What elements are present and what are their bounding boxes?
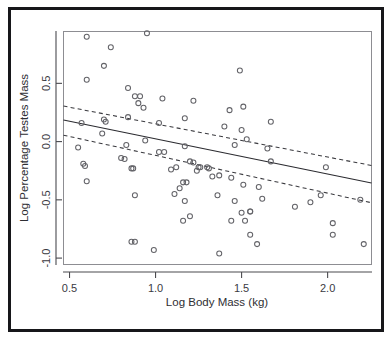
data-point bbox=[124, 143, 129, 148]
data-point bbox=[255, 242, 260, 247]
data-point bbox=[108, 45, 113, 50]
data-point bbox=[222, 124, 227, 129]
data-point bbox=[184, 180, 189, 185]
data-point bbox=[210, 174, 215, 179]
y-axis: 0.50.0-0.5-1.0 bbox=[40, 31, 62, 268]
confidence-bands bbox=[64, 106, 372, 203]
data-point bbox=[308, 200, 313, 205]
data-point bbox=[84, 77, 89, 82]
data-point bbox=[191, 98, 196, 103]
data-point bbox=[169, 167, 174, 172]
x-tick-label: 1.0 bbox=[148, 282, 163, 294]
chart-svg: 0.51.01.52.0 0.50.0-0.5-1.0 Log Body Mas… bbox=[0, 0, 392, 340]
data-point bbox=[182, 199, 187, 204]
data-point bbox=[330, 221, 335, 226]
data-point bbox=[151, 247, 156, 252]
data-point bbox=[177, 186, 182, 191]
x-axis-ticks bbox=[70, 272, 328, 278]
data-point bbox=[248, 209, 253, 214]
data-point bbox=[241, 104, 246, 109]
data-point bbox=[239, 210, 244, 215]
x-tick-label: 1.5 bbox=[234, 282, 249, 294]
y-axis-tick-labels: 0.50.0-0.5-1.0 bbox=[40, 76, 52, 268]
plot-panel-frame bbox=[64, 32, 372, 265]
data-point bbox=[100, 131, 105, 136]
data-point bbox=[243, 218, 248, 223]
data-point bbox=[237, 68, 242, 73]
y-tick-label: -1.0 bbox=[40, 249, 52, 268]
data-point bbox=[318, 193, 323, 198]
data-point bbox=[256, 185, 261, 190]
figure-container: 0.51.01.52.0 0.50.0-0.5-1.0 Log Body Mas… bbox=[0, 0, 392, 340]
data-point bbox=[227, 108, 232, 113]
data-point bbox=[239, 127, 244, 132]
y-tick-label: 0.0 bbox=[40, 134, 52, 149]
data-point bbox=[361, 242, 366, 247]
data-point bbox=[141, 105, 146, 110]
y-axis-title: Log Percentage Testes Mass bbox=[18, 74, 30, 222]
data-point bbox=[76, 145, 81, 150]
data-point bbox=[217, 251, 222, 256]
data-point bbox=[241, 182, 246, 187]
data-point bbox=[330, 232, 335, 237]
data-point bbox=[292, 204, 297, 209]
x-tick-label: 0.5 bbox=[62, 282, 77, 294]
data-point bbox=[132, 193, 137, 198]
data-point bbox=[229, 218, 234, 223]
data-point bbox=[244, 137, 249, 142]
data-point bbox=[84, 179, 89, 184]
y-tick-label: 0.5 bbox=[40, 76, 52, 91]
data-point bbox=[268, 159, 273, 164]
data-point bbox=[217, 173, 222, 178]
data-point bbox=[84, 34, 89, 39]
x-tick-label: 2.0 bbox=[320, 282, 335, 294]
data-point bbox=[232, 143, 237, 148]
data-point bbox=[232, 199, 237, 204]
y-tick-label: -0.5 bbox=[40, 190, 52, 209]
data-points bbox=[76, 31, 367, 256]
data-point bbox=[132, 239, 137, 244]
data-point bbox=[101, 63, 106, 68]
data-point bbox=[136, 101, 141, 106]
x-axis: 0.51.01.52.0 bbox=[62, 272, 372, 294]
data-point bbox=[187, 214, 192, 219]
scatter-plot: 0.51.01.52.0 0.50.0-0.5-1.0 Log Body Mas… bbox=[0, 0, 392, 340]
y-axis-ticks bbox=[56, 83, 62, 258]
data-point bbox=[182, 116, 187, 121]
data-point bbox=[126, 86, 131, 91]
x-axis-tick-labels: 0.51.01.52.0 bbox=[62, 282, 335, 294]
data-point bbox=[156, 150, 161, 155]
data-point bbox=[143, 138, 148, 143]
data-point bbox=[229, 175, 234, 180]
data-point bbox=[215, 193, 220, 198]
upper-confidence-band bbox=[64, 106, 372, 165]
data-point bbox=[248, 232, 253, 237]
data-point bbox=[323, 165, 328, 170]
data-point bbox=[265, 146, 270, 151]
data-point bbox=[138, 94, 143, 99]
data-point bbox=[132, 94, 137, 99]
data-point bbox=[181, 218, 186, 223]
data-point bbox=[260, 196, 265, 201]
x-axis-title: Log Body Mass (kg) bbox=[166, 296, 268, 308]
data-point bbox=[174, 165, 179, 170]
data-point bbox=[160, 96, 165, 101]
data-point bbox=[268, 119, 273, 124]
data-point bbox=[162, 150, 167, 155]
data-point bbox=[172, 192, 177, 197]
